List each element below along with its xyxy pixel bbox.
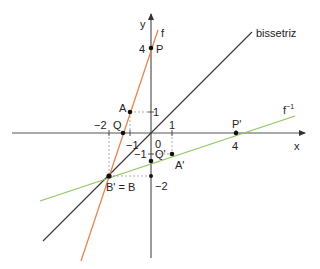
y-tick-4: 4 — [139, 43, 145, 55]
label-bissetriz: bissetriz — [256, 27, 296, 39]
label-p: P — [156, 43, 163, 55]
point-q-prime — [149, 159, 154, 164]
point-a-prime — [170, 152, 175, 157]
point-b — [106, 173, 111, 178]
inverse-function-diagram: y x 0 −2 −1 1 4 4 1 −1 −2 P A Q B' = B P… — [0, 0, 320, 269]
label-p-prime: P' — [232, 118, 241, 130]
point-q — [121, 131, 126, 136]
point-y-minus-two — [149, 174, 153, 178]
x-tick-1: 1 — [169, 119, 175, 131]
label-q: Q — [113, 119, 122, 131]
x-axis-label: x — [294, 140, 300, 152]
y-axis-label: y — [140, 18, 146, 30]
point-p — [149, 46, 154, 51]
label-b: B' = B — [106, 181, 135, 193]
label-f-inverse: f−1 — [283, 103, 294, 116]
label-a: A — [119, 102, 127, 114]
label-f-inverse-exponent: −1 — [286, 103, 294, 110]
label-f: f — [161, 27, 165, 39]
y-tick-1: 1 — [153, 106, 159, 118]
label-q-prime: Q' — [155, 148, 166, 160]
point-p-prime — [234, 131, 239, 136]
f-line — [81, 30, 158, 261]
y-tick-minus-1: −1 — [134, 148, 147, 160]
x-tick-4: 4 — [232, 140, 238, 152]
y-tick-minus-2: −2 — [155, 180, 168, 192]
x-tick-minus-2: −2 — [94, 119, 107, 131]
label-a-prime: A' — [175, 159, 184, 171]
point-a — [128, 110, 133, 115]
